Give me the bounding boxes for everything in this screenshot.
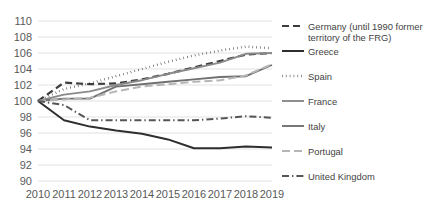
y-tick-label: 94	[20, 143, 32, 155]
y-tick-label: 110	[14, 15, 32, 27]
x-tick-label: 2015	[156, 188, 180, 200]
x-tick-label: 2011	[52, 188, 76, 200]
legend-label: Germany (until 1990 formerterritory of t…	[308, 21, 423, 43]
x-tick-label: 2012	[78, 188, 102, 200]
legend-label: France	[308, 96, 337, 107]
x-tick-label: 2013	[104, 188, 128, 200]
chart-legend: Germany (until 1990 formerterritory of t…	[282, 21, 423, 182]
series-line-italy	[38, 65, 272, 101]
y-tick-label: 102	[14, 79, 32, 91]
x-tick-label: 2010	[26, 188, 50, 200]
y-tick-label: 98	[20, 111, 32, 123]
y-tick-label: 106	[14, 47, 32, 59]
x-axis-tick-labels: 2010201120122013201420152016201720182019	[26, 188, 284, 200]
series-line-greece	[38, 101, 272, 148]
legend-label: Spain	[308, 71, 332, 82]
legend-label: Portugal	[308, 146, 343, 157]
x-tick-label: 2018	[234, 188, 258, 200]
x-tick-label: 2014	[130, 188, 154, 200]
legend-label: United Kingdom	[308, 171, 375, 182]
legend-label: Greece	[308, 46, 339, 57]
line-chart: 9092949698100102104106108110 20102011201…	[0, 0, 431, 209]
y-tick-label: 96	[20, 127, 32, 139]
x-tick-label: 2019	[260, 188, 284, 200]
gridlines	[38, 21, 272, 181]
y-tick-label: 108	[14, 31, 32, 43]
y-tick-label: 104	[14, 63, 32, 75]
y-tick-label: 92	[20, 159, 32, 171]
chart-canvas: 9092949698100102104106108110 20102011201…	[0, 0, 431, 209]
y-tick-label: 90	[20, 175, 32, 187]
x-tick-label: 2017	[208, 188, 232, 200]
x-tick-label: 2016	[182, 188, 206, 200]
y-tick-label: 100	[14, 95, 32, 107]
y-axis-tick-labels: 9092949698100102104106108110	[14, 15, 32, 187]
legend-label: Italy	[308, 121, 326, 132]
